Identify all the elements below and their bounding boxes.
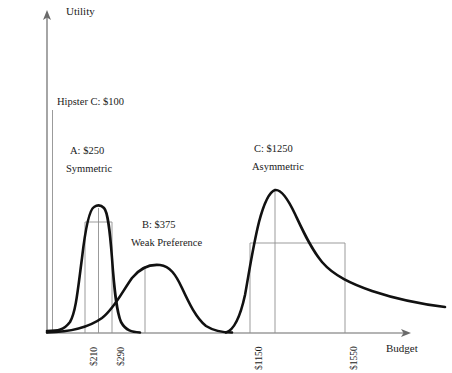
guide-lines-group bbox=[53, 110, 346, 333]
annotation-a-line1: A: $250 bbox=[70, 145, 104, 156]
x-axis-title: Budget bbox=[386, 342, 418, 354]
y-axis-title: Utility bbox=[66, 5, 95, 17]
annotation-a-line2: Symmetric bbox=[66, 163, 112, 174]
xtick-label-210: $210 bbox=[89, 347, 99, 366]
xtick-label-1150: $1150 bbox=[254, 347, 264, 370]
annotation-b-line2: Weak Preference bbox=[131, 237, 202, 248]
curve-a-symmetric bbox=[47, 206, 140, 333]
annotation-b-line1: B: $375 bbox=[142, 219, 176, 230]
curve-b-broad bbox=[47, 265, 232, 333]
curve-c-asymmetric bbox=[226, 190, 445, 333]
xtick-label-1550: $1550 bbox=[349, 346, 359, 370]
utility-budget-chart bbox=[0, 0, 452, 373]
curves-group bbox=[47, 190, 445, 333]
annotation-hipster-c: Hipster C: $100 bbox=[57, 96, 124, 107]
annotation-c-line2: Asymmetric bbox=[252, 161, 304, 172]
annotation-c-line1: C: $1250 bbox=[254, 143, 293, 154]
xtick-label-290: $290 bbox=[116, 347, 126, 366]
